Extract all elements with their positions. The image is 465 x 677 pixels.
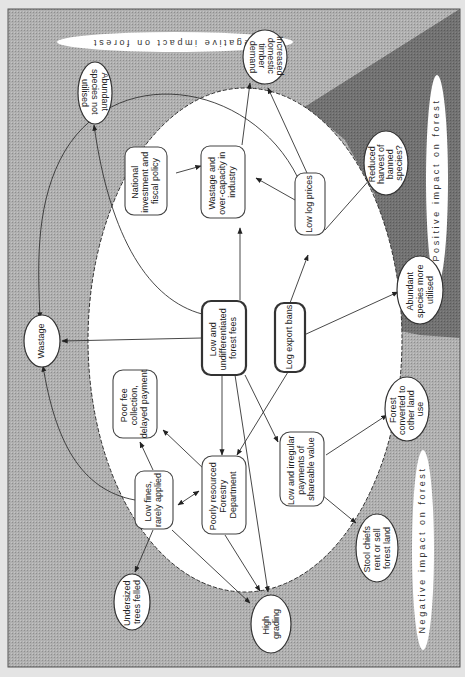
svg-text:Low log prices: Low log prices [304, 175, 314, 233]
svg-text:Undersized trees felled: Undersized trees felled [122, 578, 142, 626]
zone-label-negative-bottom: Negative impact on forest [412, 450, 434, 650]
node-domestic-demand[interactable]: Increased domestic timber demand [243, 30, 287, 84]
node-stool-chiefs[interactable]: Stool chiefs rent or sell forest land [356, 514, 398, 582]
node-undersized-trees[interactable]: Undersized trees felled [114, 574, 150, 630]
zone-label-positive: Positive impact on forest [426, 75, 448, 285]
node-high-grading[interactable]: High grading [251, 595, 291, 653]
node-log-export-bans[interactable]: Log export bans [275, 303, 305, 372]
svg-text:Reduced harvest of: Reduced harvest of banned species? [367, 142, 404, 184]
node-forestry-department[interactable]: Poorly resourced Forestry Department [202, 456, 246, 534]
node-low-log-prices[interactable]: Low log prices [295, 173, 325, 235]
node-irregular-payments[interactable]: Low and irregular payments of shareable … [280, 432, 324, 506]
svg-text:Log export bans: Log export bans [284, 304, 294, 369]
node-reduced-harvest[interactable]: Reduced harvest of banned species? [364, 131, 408, 195]
svg-text:Wastage: Wastage [36, 323, 46, 358]
svg-text:Negative impact on forest: Negative impact on forest [417, 466, 427, 633]
forest-fee-impact-diagram: Negative impact on forest Positive impac… [0, 0, 465, 677]
svg-text:Low fines, rarely applie: Low fines, rarely applied [143, 473, 163, 527]
svg-text:Negative impact on forest: Negative impact on forest [91, 38, 258, 48]
node-wastage-industry[interactable]: Wastage and over-capacity in industry [201, 146, 245, 218]
node-abundant-more-utilised[interactable]: Abundant species more utilised [397, 256, 443, 324]
svg-text:Stool chiefs rent or sel: Stool chiefs rent or sell forest land [362, 523, 392, 572]
node-abundant-not-utilised[interactable]: Abundant species not utilised [78, 62, 112, 124]
svg-text:Low and irregular paymen: Low and irregular payments of shareable … [286, 433, 316, 505]
node-forest-converted[interactable]: Forest converted to other land use [385, 377, 429, 441]
svg-text:Increased domestic: Increased domestic timber demand [248, 36, 285, 78]
node-poor-fee-collection[interactable]: Poor fee collection, delayed payment [113, 369, 157, 438]
node-low-fines[interactable]: Low fines, rarely applied [135, 471, 173, 529]
svg-text:High grading: High grading [261, 609, 281, 639]
node-forest-fees[interactable]: Low and undifferentiated forest fees [202, 301, 246, 375]
node-wastage[interactable]: Wastage [24, 315, 60, 367]
node-national-policy[interactable]: National investment and fiscal policy [125, 147, 167, 215]
svg-text:Positive impact on forest: Positive impact on forest [431, 98, 441, 261]
